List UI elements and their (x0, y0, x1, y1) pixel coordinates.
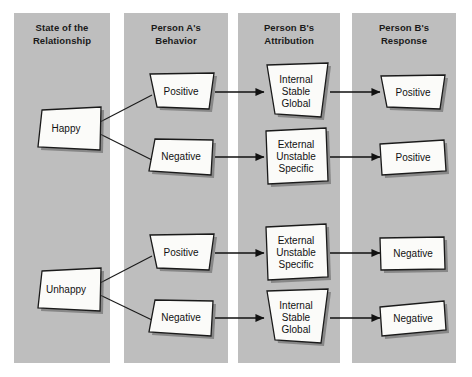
node-behavior-unhappy-negative[interactable]: Negative (146, 298, 216, 338)
node-response-positive-second-label: Positive (393, 152, 432, 164)
node-behavior-unhappy-positive[interactable]: Positive (146, 233, 216, 273)
node-behavior-happy-positive[interactable]: Positive (146, 72, 216, 112)
node-response-negative-third[interactable]: Negative (378, 235, 448, 273)
node-response-negative-bottom[interactable]: Negative (378, 300, 448, 338)
node-attribution-external-top[interactable]: External Unstable Specific (262, 127, 330, 187)
node-response-negative-third-label: Negative (391, 248, 434, 260)
node-behavior-unhappy-negative-label: Negative (159, 312, 202, 324)
node-attribution-internal-bottom[interactable]: Internal Stable Global (262, 288, 330, 348)
node-behavior-happy-positive-label: Positive (161, 86, 200, 98)
node-attribution-internal-top-label: Internal Stable Global (277, 74, 314, 110)
node-happy[interactable]: Happy (30, 106, 102, 152)
node-attribution-external-bottom[interactable]: External Unstable Specific (262, 223, 330, 283)
diagram-canvas: State of the Relationship Person A's Beh… (0, 0, 472, 377)
node-response-negative-bottom-label: Negative (391, 313, 434, 325)
node-response-positive-top-label: Positive (393, 87, 432, 99)
node-happy-label: Happy (50, 123, 83, 135)
node-unhappy[interactable]: Unhappy (30, 267, 102, 313)
node-attribution-internal-bottom-label: Internal Stable Global (277, 300, 314, 336)
node-behavior-happy-negative[interactable]: Negative (146, 137, 216, 177)
node-behavior-unhappy-positive-label: Positive (161, 247, 200, 259)
node-attribution-external-bottom-label: External Unstable Specific (274, 235, 317, 271)
node-unhappy-label: Unhappy (44, 284, 88, 296)
node-attribution-external-top-label: External Unstable Specific (274, 139, 317, 175)
node-attribution-internal-top[interactable]: Internal Stable Global (262, 62, 330, 122)
node-response-positive-second[interactable]: Positive (378, 139, 448, 177)
node-response-positive-top[interactable]: Positive (378, 74, 448, 112)
node-behavior-happy-negative-label: Negative (159, 151, 202, 163)
